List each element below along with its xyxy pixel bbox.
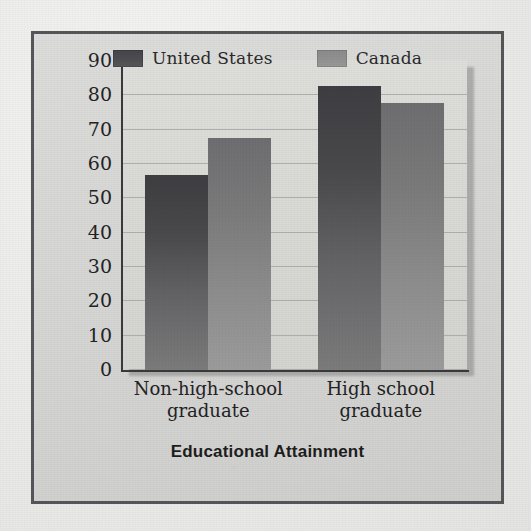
legend-swatch-canada-icon (317, 50, 347, 67)
y-tick-label-20: 20 (88, 289, 121, 311)
y-tick-label-30: 30 (88, 255, 121, 277)
legend-label-canada: Canada (356, 48, 422, 68)
chart-plot-area: 9080706050403020100 Non-high-schoolgradu… (34, 34, 501, 501)
legend-item-canada[interactable]: Canada (317, 48, 422, 68)
x-axis-line (121, 370, 469, 372)
bar-canada-group-1 (208, 138, 271, 371)
figure-frame: United States Canada 9080706050403020100… (31, 31, 504, 504)
bar-united-states-group-2 (318, 86, 381, 371)
y-tick-label-10: 10 (88, 324, 121, 346)
chart-legend: United States Canada (34, 48, 501, 68)
y-axis-line (121, 59, 123, 371)
y-tick-label-80: 80 (88, 83, 121, 105)
y-tick-label-60: 60 (88, 152, 121, 174)
legend-swatch-united-states-icon (113, 50, 143, 67)
x-category-label-2: High schoolgraduate (295, 378, 468, 422)
bars-layer (122, 60, 467, 371)
bar-united-states-group-1 (145, 175, 208, 371)
y-tick-label-50: 50 (88, 186, 121, 208)
y-tick-label-0: 0 (100, 358, 121, 380)
legend-item-united-states[interactable]: United States (113, 48, 273, 68)
x-axis-title: Educational Attainment (34, 442, 501, 462)
y-tick-label-70: 70 (88, 118, 121, 140)
y-tick-label-40: 40 (88, 221, 121, 243)
x-axis-category-labels: Non-high-schoolgraduateHigh schoolgradua… (122, 378, 467, 438)
bar-canada-group-2 (381, 103, 444, 371)
x-category-label-1: Non-high-schoolgraduate (122, 378, 295, 422)
legend-label-united-states: United States (152, 48, 273, 68)
